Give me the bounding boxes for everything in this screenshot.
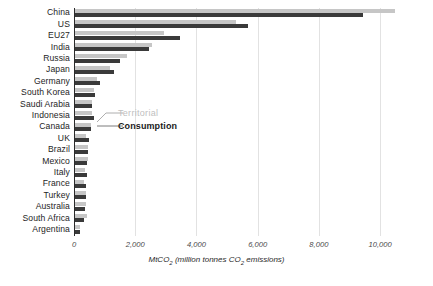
category-label: Russia [0, 53, 70, 63]
x-tick-label: 4,000 [187, 240, 206, 249]
category-label: Brazil [0, 144, 70, 154]
category-label: Saudi Arabia [0, 99, 70, 109]
annotation-territorial: Territorial [118, 108, 158, 118]
annotation-consumption: Consumption [118, 121, 177, 131]
chart-figure: ChinaUSEU27IndiaRussiaJapanGermanySouth … [0, 0, 433, 286]
category-label: India [0, 42, 70, 52]
x-axis-title: MtCO2 (million tonnes CO2 emissions) [0, 255, 433, 266]
x-tick-label: 8,000 [309, 240, 328, 249]
category-label: Indonesia [0, 110, 70, 120]
category-label: UK [0, 133, 70, 143]
category-label: Japan [0, 64, 70, 74]
x-axis-title-middle: (million tonnes CO [173, 255, 241, 264]
category-label: South Africa [0, 213, 70, 223]
category-label: Turkey [0, 190, 70, 200]
category-label: Mexico [0, 156, 70, 166]
category-label: Argentina [0, 224, 70, 234]
category-label: South Korea [0, 87, 70, 97]
category-label: Canada [0, 121, 70, 131]
category-label: France [0, 178, 70, 188]
x-tick-label: 10,000 [368, 240, 391, 249]
x-tick-label: 6,000 [248, 240, 267, 249]
category-label: US [0, 19, 70, 29]
category-label: Italy [0, 167, 70, 177]
category-label: EU27 [0, 30, 70, 40]
x-tick-label: 2,000 [126, 240, 145, 249]
x-axis-title-prefix: MtCO [148, 255, 169, 264]
x-tick-label: 0 [72, 240, 76, 249]
category-labels: ChinaUSEU27IndiaRussiaJapanGermanySouth … [0, 8, 433, 236]
category-label: Australia [0, 201, 70, 211]
x-axis-title-suffix: emissions) [244, 255, 284, 264]
category-label: China [0, 7, 70, 17]
category-label: Germany [0, 76, 70, 86]
